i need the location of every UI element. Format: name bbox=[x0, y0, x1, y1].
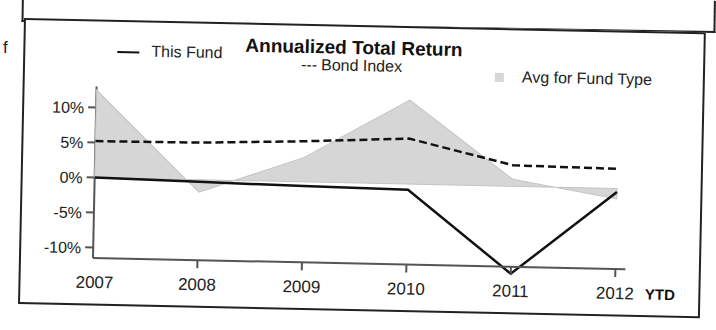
y-tick-label: 5% bbox=[60, 134, 83, 151]
x-tick-label: 2012 bbox=[596, 284, 634, 304]
x-axis: 200720082009201020112012YTD bbox=[75, 258, 675, 305]
avg-fund-type-area-path bbox=[94, 90, 618, 201]
side-letter: f bbox=[3, 38, 8, 58]
x-tick-label: 2011 bbox=[492, 281, 529, 301]
plot-area: 10%5%0%-5%-10% 200720082009201020112012Y… bbox=[20, 20, 704, 316]
x-tick-label: 2010 bbox=[387, 279, 425, 299]
x-tick-label: 2009 bbox=[282, 277, 320, 297]
y-tick-label: 10% bbox=[52, 99, 84, 117]
ytd-label: YTD bbox=[645, 286, 676, 304]
chart-frame: Annualized Total Return This Fund ---Bon… bbox=[18, 18, 706, 318]
y-tick-label: -10% bbox=[44, 238, 82, 256]
y-axis: 10%5%0%-5%-10% bbox=[44, 86, 97, 258]
x-tick-label: 2008 bbox=[178, 275, 216, 295]
this-fund-line bbox=[93, 178, 617, 276]
y-tick-label: 0% bbox=[59, 169, 82, 186]
y-tick-label: -5% bbox=[53, 204, 82, 222]
x-tick-label: 2007 bbox=[75, 273, 113, 293]
avg-fund-type-area bbox=[94, 90, 618, 201]
